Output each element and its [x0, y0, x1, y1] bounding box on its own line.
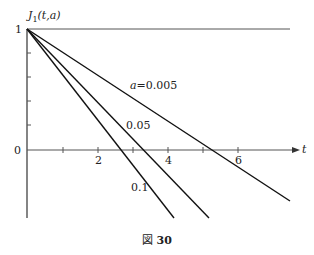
series-label-a-0.005: a=0.005	[130, 80, 177, 91]
series-line-a-0.1	[27, 29, 174, 218]
x-axis-arrow-icon	[292, 147, 300, 153]
y-axis-title: J1(t,a)	[28, 10, 61, 24]
y-tick-label-0: 0	[14, 145, 21, 156]
figure-caption: 図 30	[0, 231, 314, 247]
x-axis-title: t	[302, 144, 306, 155]
y-axis-title-args: (t,a)	[38, 9, 61, 22]
series-label-a-0.05: 0.05	[126, 120, 151, 131]
x-tick-label-2: 2	[95, 155, 102, 166]
x-tick-label-6: 6	[235, 155, 242, 166]
caption-number: 30	[157, 234, 172, 247]
series-label-a-val: =0.005	[137, 79, 178, 92]
y-tick-label-1: 1	[15, 24, 22, 35]
caption-prefix: 図	[142, 234, 153, 247]
series-line-a-0.005	[27, 29, 290, 201]
series-line-a-0.05	[27, 29, 209, 218]
chart-canvas	[0, 0, 314, 255]
x-tick-label-4: 4	[165, 155, 172, 166]
series-label-a-0.1: 0.1	[131, 182, 149, 193]
